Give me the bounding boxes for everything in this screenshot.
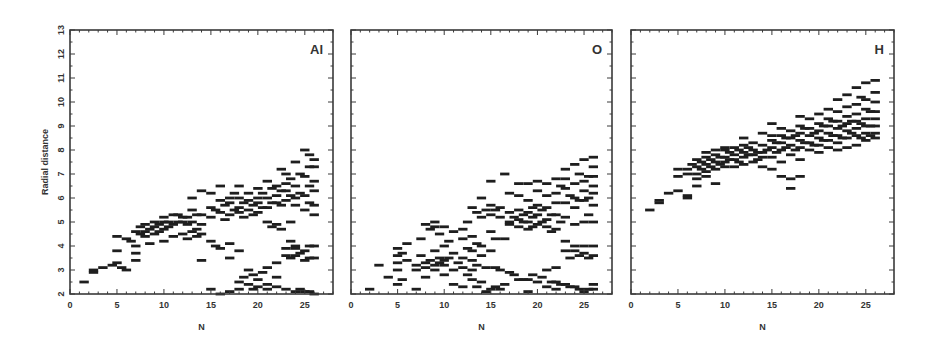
data-marker <box>842 122 851 125</box>
data-marker <box>763 149 772 152</box>
data-marker <box>239 201 248 204</box>
data-marker <box>786 129 795 132</box>
data-marker <box>286 177 295 180</box>
data-marker <box>173 213 182 216</box>
data-marker <box>239 276 248 279</box>
data-marker <box>739 163 748 166</box>
data-marker <box>164 225 173 228</box>
y-axis-title: Radial distance <box>40 129 50 195</box>
data-marker <box>253 278 262 281</box>
data-marker <box>295 252 304 255</box>
data-marker <box>561 168 570 171</box>
data-markers <box>645 79 880 211</box>
x-tick-label: 5 <box>395 300 400 310</box>
data-marker <box>263 288 272 291</box>
data-marker <box>463 273 472 276</box>
data-marker <box>579 158 588 161</box>
data-marker <box>281 173 290 176</box>
data-marker <box>814 122 823 125</box>
data-marker <box>281 199 290 202</box>
data-marker <box>655 199 664 202</box>
data-marker <box>772 151 781 154</box>
data-marker <box>570 206 579 209</box>
data-marker <box>300 149 309 152</box>
data-marker <box>421 261 430 264</box>
data-marker <box>720 165 729 168</box>
data-marker <box>725 151 734 154</box>
data-marker <box>491 209 500 212</box>
data-marker <box>249 204 258 207</box>
data-marker <box>523 228 532 231</box>
data-marker <box>281 189 290 192</box>
data-marker <box>734 149 743 152</box>
data-marker <box>528 273 537 276</box>
data-marker <box>533 189 542 192</box>
data-marker <box>523 278 532 281</box>
data-marker <box>758 156 767 159</box>
data-marker <box>310 165 319 168</box>
data-marker <box>140 230 149 233</box>
data-marker <box>477 254 486 257</box>
data-marker <box>701 156 710 159</box>
data-marker <box>842 137 851 140</box>
data-marker <box>824 117 833 120</box>
data-marker <box>523 199 532 202</box>
data-marker <box>468 235 477 238</box>
data-marker <box>589 245 598 248</box>
data-marker <box>463 221 472 224</box>
data-marker <box>528 216 537 219</box>
data-marker <box>468 269 477 272</box>
data-marker <box>206 192 215 195</box>
data-marker <box>112 249 121 252</box>
y-tick-label: 4 <box>56 243 66 248</box>
data-marker <box>440 259 449 262</box>
data-marker <box>472 242 481 245</box>
data-marker <box>155 230 164 233</box>
data-marker <box>398 252 407 255</box>
data-marker <box>758 144 767 147</box>
data-marker <box>505 271 514 274</box>
data-marker <box>833 127 842 130</box>
data-marker <box>305 290 314 293</box>
data-marker <box>253 285 262 288</box>
data-marker <box>234 197 243 200</box>
data-marker <box>98 266 107 269</box>
data-marker <box>795 139 804 142</box>
data-marker <box>393 247 402 250</box>
data-marker <box>692 158 701 161</box>
data-marker <box>777 175 786 178</box>
data-marker <box>767 156 776 159</box>
data-marker <box>584 197 593 200</box>
y-tick-label: 3 <box>56 267 66 272</box>
data-marker <box>589 192 598 195</box>
panel-h: 0510152025 H N <box>628 30 894 332</box>
data-marker <box>482 266 491 269</box>
data-marker <box>505 221 514 224</box>
data-marker <box>216 199 225 202</box>
data-marker <box>267 187 276 190</box>
data-marker <box>435 261 444 264</box>
x-tick-label: 20 <box>814 300 824 310</box>
data-marker <box>500 173 509 176</box>
data-marker <box>197 223 206 226</box>
data-marker <box>496 206 505 209</box>
data-marker <box>852 103 861 106</box>
data-marker <box>421 276 430 279</box>
data-marker <box>263 206 272 209</box>
data-marker <box>263 283 272 286</box>
data-marker <box>551 177 560 180</box>
data-marker <box>463 247 472 250</box>
data-marker <box>781 146 790 149</box>
data-marker <box>272 201 281 204</box>
data-marker <box>579 252 588 255</box>
data-marker <box>871 125 880 128</box>
data-marker <box>767 146 776 149</box>
data-marker <box>435 257 444 260</box>
data-marker <box>430 264 439 267</box>
data-marker <box>89 271 98 274</box>
data-marker <box>444 257 453 260</box>
data-marker <box>159 216 168 219</box>
data-marker <box>805 141 814 144</box>
data-marker <box>277 204 286 207</box>
data-marker <box>310 158 319 161</box>
